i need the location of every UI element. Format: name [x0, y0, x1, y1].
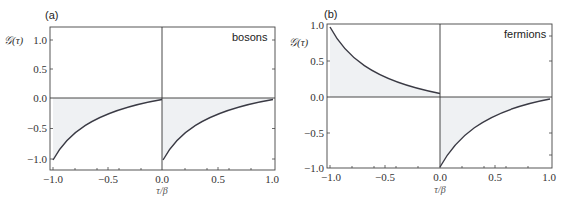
- xtick-a-3: 0.5: [211, 173, 225, 185]
- xtick-b-3: 0.5: [488, 171, 502, 183]
- ytick-a-3: −0.5: [27, 122, 47, 134]
- xtick-b-4: 1.0: [542, 171, 556, 183]
- ytick-b-1: 0.5: [310, 55, 324, 67]
- legend-fermions: fermions: [504, 28, 547, 40]
- panel-b: (b) fermions 𝒢(τ) 1.0 0.5 0.0 −0.5 −1.0 …: [289, 8, 556, 195]
- ytick-b-0: 1.0: [310, 19, 324, 31]
- panel-label-a: (a): [45, 9, 58, 21]
- ytick-b-2: 0.0: [310, 91, 324, 103]
- xtick-b-1: −0.5: [375, 171, 395, 183]
- x-axis-title-a: τ/β: [156, 185, 167, 196]
- y-axis-title-b: 𝒢(τ): [289, 36, 309, 49]
- legend-bosons: bosons: [232, 31, 268, 43]
- ytick-a-1: 0.5: [33, 63, 47, 75]
- panel-a: (a) bosons 𝒢(τ) 1.0 0.5 0.0 −0.5 −1.0 −1…: [4, 9, 279, 196]
- panel-label-b: (b): [324, 8, 337, 20]
- ytick-a-0: 1.0: [33, 34, 47, 46]
- xtick-b-2: 0.0: [433, 171, 447, 183]
- x-axis-title-b: τ/β: [434, 184, 445, 195]
- ytick-a-2: 0.0: [33, 92, 47, 104]
- fill-area-b-lower: [440, 97, 550, 167]
- y-axis-title-a: 𝒢(τ): [4, 34, 24, 47]
- xtick-a-4: 1.0: [265, 173, 279, 185]
- ytick-a-4: −1.0: [27, 153, 47, 165]
- xtick-a-1: −0.5: [98, 173, 118, 185]
- fill-area-b-upper: [330, 27, 440, 97]
- ytick-b-3: −0.5: [304, 127, 324, 139]
- xtick-a-0: −1.0: [43, 173, 63, 185]
- xtick-a-2: 0.0: [155, 173, 169, 185]
- xtick-b-0: −1.0: [321, 171, 341, 183]
- figure: (a) bosons 𝒢(τ) 1.0 0.5 0.0 −0.5 −1.0 −1…: [0, 0, 564, 201]
